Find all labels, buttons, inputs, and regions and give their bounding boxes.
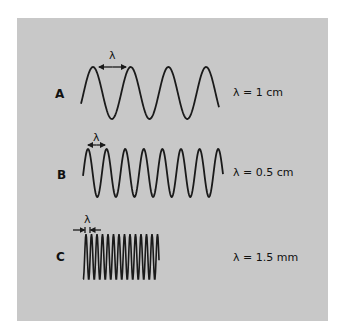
row-label-a: A [55,87,64,101]
wave-b [83,145,223,197]
wavelength-value-a: λ = 1 cm [233,86,283,99]
sine-wave [83,234,159,279]
wave-c [73,227,159,279]
sine-wave [81,67,219,119]
wavelength-marker-a: λ [109,49,116,62]
row-label-c: C [56,250,65,264]
wave-a [81,67,219,119]
row-label-b: B [57,168,66,182]
wavelength-value-b: λ = 0.5 cm [233,166,293,179]
sine-wave [83,149,223,197]
wavelength-value-c: λ = 1.5 mm [233,251,298,264]
wavelength-marker-b: λ [93,131,100,144]
wavelength-marker-c: λ [84,213,91,226]
